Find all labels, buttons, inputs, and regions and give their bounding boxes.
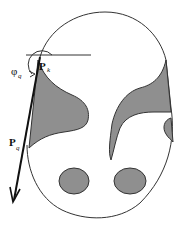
right-bump-shaded-region (164, 118, 173, 142)
label-pk: P (39, 60, 46, 72)
bottom-left-blob (59, 168, 89, 194)
label-pq-subscript: q (16, 144, 20, 152)
bottom-right-blob (114, 168, 146, 194)
diagram-canvas: P k φ q P q (0, 0, 190, 228)
right-hook-shaded-region (109, 60, 171, 160)
label-phi: φ (11, 65, 17, 77)
label-pq: P (9, 136, 16, 148)
label-phi-subscript: q (18, 72, 22, 80)
label-pk-subscript: k (47, 66, 51, 74)
